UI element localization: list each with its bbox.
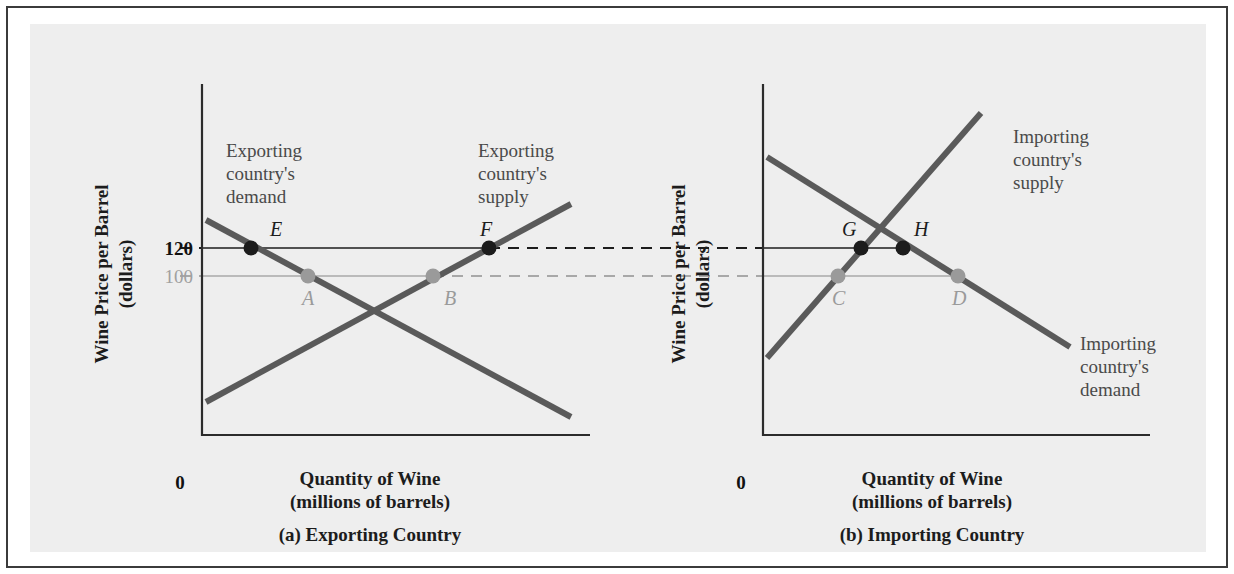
panel-a-xlabel-line1: Quantity of Wine [300, 468, 441, 489]
figure-frame: Exporting country's demand Exporting cou… [6, 6, 1228, 568]
panel-a-origin: 0 [175, 472, 185, 493]
panel-b-xlabel-line1: Quantity of Wine [862, 468, 1003, 489]
panel-b-ylabel-line1: Wine Price per Barrel [668, 185, 689, 364]
label-importing-demand-line3: demand [1080, 379, 1141, 400]
panel-b-xlabel-line2: (millions of barrels) [852, 491, 1012, 513]
panel-a-ylabel-line1: Wine Price per Barrel [91, 185, 112, 364]
point-label-C: C [832, 287, 846, 309]
figure-plate: Exporting country's demand Exporting cou… [30, 24, 1206, 552]
point-C [831, 269, 846, 284]
panel-a-caption: (a) Exporting Country [279, 524, 462, 546]
label-importing-supply-line1: Importing [1013, 126, 1089, 147]
panel-b-caption: (b) Importing Country [840, 524, 1025, 546]
curve-importing-supply [767, 113, 981, 358]
point-H [896, 241, 911, 256]
label-importing-demand-line1: Importing [1080, 333, 1156, 354]
point-label-B: B [444, 287, 456, 309]
label-exporting-supply-line1: Exporting [478, 140, 554, 161]
curve-exporting-supply [206, 204, 571, 402]
panel-b-ylabel-line2: (dollars) [692, 240, 714, 309]
point-label-H: H [913, 218, 930, 240]
panel-a-axes [202, 84, 590, 435]
point-G [854, 241, 869, 256]
label-exporting-supply-line3: supply [478, 186, 529, 207]
label-exporting-supply-line2: country's [478, 163, 547, 184]
label-importing-supply-line2: country's [1013, 149, 1082, 170]
panel-importing-country: Importing country's supply Importing cou… [668, 84, 1156, 546]
curve-exporting-demand [206, 220, 571, 417]
panel-a-ylabel-line2: (dollars) [115, 240, 137, 309]
point-A [301, 269, 316, 284]
point-D [951, 269, 966, 284]
label-exporting-demand-line2: country's [226, 163, 295, 184]
ytick-120: 120 [165, 238, 194, 259]
point-E [244, 241, 259, 256]
panel-b-origin: 0 [736, 472, 746, 493]
point-label-G: G [842, 218, 857, 240]
point-label-D: D [951, 287, 967, 309]
point-label-A: A [300, 287, 315, 309]
point-B [426, 269, 441, 284]
point-F [482, 241, 497, 256]
label-exporting-demand-line1: Exporting [226, 140, 302, 161]
panel-exporting-country: Exporting country's demand Exporting cou… [91, 84, 590, 546]
wine-trade-diagram: Exporting country's demand Exporting cou… [30, 24, 1206, 552]
point-label-F: F [479, 218, 493, 240]
label-exporting-demand-line3: demand [226, 186, 287, 207]
panel-a-xlabel-line2: (millions of barrels) [290, 491, 450, 513]
label-importing-demand-line2: country's [1080, 356, 1149, 377]
ytick-100: 100 [165, 266, 194, 287]
point-label-E: E [269, 218, 282, 240]
label-importing-supply-line3: supply [1013, 172, 1064, 193]
